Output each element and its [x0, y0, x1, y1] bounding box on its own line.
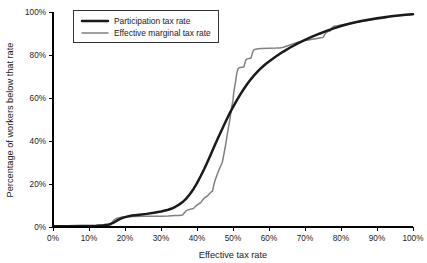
plot-series — [53, 14, 413, 226]
y-axis-tick-labels: 0%20%40%60%80%100% — [25, 8, 46, 232]
y-tick-label: 0% — [34, 223, 46, 232]
cumulative-distribution-chart: 0%20%40%60%80%100% 0%10%20%30%40%50%60%7… — [0, 0, 427, 263]
y-axis-title: Percentage of workers below that rate — [5, 43, 15, 198]
axis-tick-marks — [49, 12, 413, 231]
x-tick-label: 50% — [225, 234, 241, 243]
y-tick-label: 100% — [25, 8, 46, 17]
x-tick-label: 0% — [47, 234, 59, 243]
chart-legend: Participation tax rate Effective margina… — [74, 11, 219, 43]
x-axis-title: Effective tax rate — [199, 250, 267, 260]
y-tick-label: 40% — [30, 137, 46, 146]
legend-label-participation: Participation tax rate — [114, 16, 191, 26]
x-tick-label: 90% — [369, 234, 385, 243]
x-tick-label: 40% — [189, 234, 205, 243]
x-tick-label: 30% — [153, 234, 169, 243]
series-line-effective-marginal — [53, 14, 413, 226]
chart-figure: 0%20%40%60%80%100% 0%10%20%30%40%50%60%7… — [0, 0, 427, 263]
y-tick-label: 60% — [30, 94, 46, 103]
series-line-participation — [53, 14, 413, 226]
x-axis-tick-labels: 0%10%20%30%40%50%60%70%80%90%100% — [47, 234, 423, 243]
x-tick-label: 70% — [297, 234, 313, 243]
legend-label-effective-marginal: Effective marginal tax rate — [114, 28, 211, 38]
x-tick-label: 80% — [333, 234, 349, 243]
x-tick-label: 60% — [261, 234, 277, 243]
x-tick-label: 10% — [81, 234, 97, 243]
axis-frame — [53, 12, 413, 227]
y-tick-label: 80% — [30, 51, 46, 60]
x-tick-label: 100% — [403, 234, 424, 243]
x-tick-label: 20% — [117, 234, 133, 243]
y-tick-label: 20% — [30, 180, 46, 189]
